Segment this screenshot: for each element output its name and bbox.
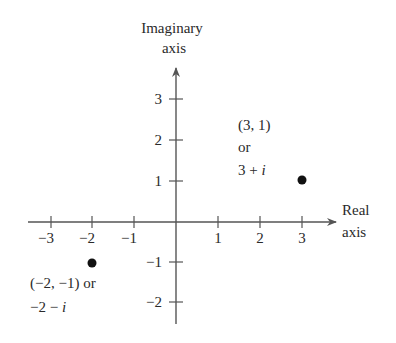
x-tick-label: −3 [38, 230, 54, 246]
x-tick-label: −1 [121, 230, 137, 246]
point-3-plus-i [298, 176, 307, 185]
imaginary-axis-label: axis [162, 40, 186, 56]
point-label-or: or [238, 139, 251, 155]
x-tick-label: 2 [256, 230, 264, 246]
y-tick-label: 3 [155, 91, 163, 107]
point-label-coord: (−2, −1) or [30, 275, 96, 292]
x-tick-label: −2 [79, 230, 95, 246]
point-minus-2-minus-i [88, 259, 97, 268]
point-label-complex: −2 − i [30, 299, 66, 315]
point-label-coord: (3, 1) [238, 117, 271, 134]
y-tick-label: 2 [155, 132, 163, 148]
y-tick-label: −1 [146, 254, 162, 270]
real-axis-label: Real [342, 202, 370, 218]
imaginary-axis-label: Imaginary [141, 20, 203, 36]
y-tick-label: −2 [146, 294, 162, 310]
point-label-complex: 3 + i [238, 162, 266, 178]
complex-plane-diagram: −3 −2 −1 1 2 3 3 2 1 −1 −2 Imaginary axi… [0, 0, 396, 343]
x-tick-label: 3 [298, 230, 306, 246]
real-axis-label: axis [342, 224, 366, 240]
y-tick-label: 1 [155, 173, 163, 189]
x-tick-label: 1 [214, 230, 222, 246]
